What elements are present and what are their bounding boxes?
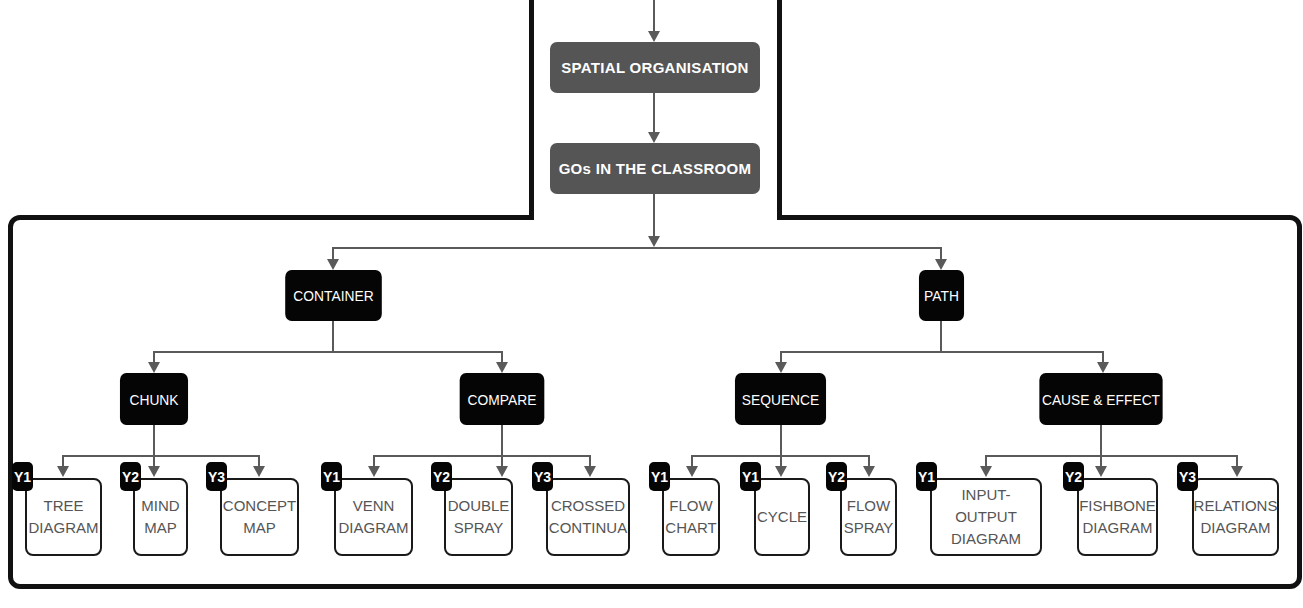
arrow-icon [863, 466, 875, 477]
leaf-concept-map[interactable]: CONCEPT MAP [220, 478, 299, 556]
arrow-icon [1097, 362, 1109, 373]
year-badge: Y2 [826, 462, 847, 491]
arrow-icon [496, 362, 508, 373]
arrow-icon [648, 236, 660, 247]
connector [332, 247, 334, 259]
year-badge: Y1 [916, 462, 937, 491]
leaf-cycle[interactable]: CYCLE [754, 478, 810, 556]
connector [501, 425, 503, 469]
connector [985, 455, 1238, 457]
node-container[interactable]: CONTAINER [285, 270, 382, 321]
node-path[interactable]: PATH [919, 270, 964, 321]
connector [940, 247, 942, 259]
node-spatial-organisation[interactable]: SPATIAL ORGANISATION [550, 42, 760, 93]
leaf-input-output-diagram[interactable]: INPUT-OUTPUT DIAGRAM [930, 478, 1042, 556]
leaf-venn-diagram[interactable]: VENN DIAGRAM [334, 478, 413, 556]
year-badge: Y3 [206, 462, 227, 491]
connector-top-in [653, 0, 655, 32]
year-badge: Y2 [431, 462, 452, 491]
year-badge: Y1 [740, 462, 761, 491]
arrow-icon [368, 466, 380, 477]
arrow-icon [935, 259, 947, 270]
arrow-icon [648, 132, 660, 143]
frame-right-top [777, 0, 782, 219]
arrow-icon [1095, 466, 1107, 477]
year-badge: Y2 [1063, 462, 1084, 491]
arrow-icon [253, 466, 265, 477]
arrow-icon [775, 362, 787, 373]
node-gos-in-the-classroom[interactable]: GOs IN THE CLASSROOM [550, 143, 760, 194]
arrow-icon [648, 31, 660, 42]
arrow-icon [980, 466, 992, 477]
year-badge: Y3 [1177, 462, 1198, 491]
arrow-icon [148, 362, 160, 373]
leaf-flow-chart[interactable]: FLOW CHART [662, 478, 720, 556]
leaf-fishbone-diagram[interactable]: FISHBONE DIAGRAM [1077, 478, 1158, 556]
arrow-icon [327, 259, 339, 270]
node-sequence[interactable]: SEQUENCE [735, 373, 826, 425]
frame-gap-mask [534, 214, 777, 221]
node-chunk[interactable]: CHUNK [120, 373, 188, 425]
connector [153, 425, 155, 469]
arrow-icon [57, 466, 69, 477]
leaf-flow-spray[interactable]: FLOW SPRAY [840, 478, 897, 556]
leaf-crossed-continua[interactable]: CROSSED CONTINUA [546, 478, 630, 556]
arrow-icon [686, 466, 698, 477]
connector [373, 455, 591, 457]
frame-left-top [529, 0, 534, 219]
connector [153, 351, 503, 353]
year-badge: Y1 [12, 462, 33, 491]
connector [780, 351, 1104, 353]
connector [691, 455, 870, 457]
arrow-icon [496, 466, 508, 477]
year-badge: Y1 [321, 462, 342, 491]
leaf-mind-map[interactable]: MIND MAP [133, 478, 188, 556]
connector [940, 321, 942, 352]
arrow-icon [775, 466, 787, 477]
year-badge: Y2 [120, 462, 141, 491]
leaf-tree-diagram[interactable]: TREE DIAGRAM [25, 478, 102, 556]
year-badge: Y3 [532, 462, 553, 491]
arrow-icon [148, 466, 160, 477]
connector [653, 194, 655, 238]
arrow-icon [584, 466, 596, 477]
leaf-double-spray[interactable]: DOUBLE SPRAY [444, 478, 513, 556]
connector-level1 [332, 247, 942, 249]
node-compare[interactable]: COMPARE [460, 373, 545, 425]
connector [1100, 425, 1102, 469]
year-badge: Y1 [649, 462, 670, 491]
connector [332, 321, 334, 352]
connector [62, 455, 260, 457]
leaf-relations-diagram[interactable]: RELATIONS DIAGRAM [1192, 478, 1279, 556]
arrow-icon [1231, 466, 1243, 477]
node-cause-effect[interactable]: CAUSE & EFFECT [1039, 373, 1162, 425]
connector [653, 93, 655, 133]
connector [780, 425, 782, 469]
